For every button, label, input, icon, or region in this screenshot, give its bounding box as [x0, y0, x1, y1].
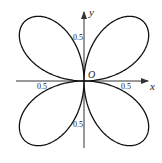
- tick-label-x-neg: 0.5: [37, 82, 47, 91]
- y-axis-label: y: [88, 6, 94, 18]
- rose-diagram: y x O 0.5 0.5 0.5 0.5: [0, 0, 162, 163]
- x-axis-label: x: [149, 80, 155, 92]
- tick-label-y-neg: 0.5: [73, 120, 83, 129]
- origin-label: O: [88, 69, 95, 80]
- tick-label-y-pos: 0.5: [73, 33, 83, 42]
- tick-label-x-pos: 0.5: [121, 82, 131, 91]
